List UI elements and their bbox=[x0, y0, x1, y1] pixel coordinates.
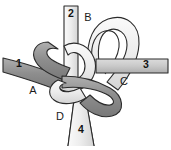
knot-diagram-figure: 1 2 3 4 A B C D bbox=[0, 0, 171, 150]
endpoint-label-2: 2 bbox=[68, 7, 74, 19]
strand-layer-mid-horizontal bbox=[96, 59, 168, 73]
region-label-d: D bbox=[56, 110, 64, 122]
region-label-a: A bbox=[29, 84, 37, 96]
region-label-c: C bbox=[120, 75, 128, 87]
endpoint-label-3: 3 bbox=[143, 58, 149, 70]
region-label-b: B bbox=[84, 11, 91, 23]
endpoint-label-1: 1 bbox=[16, 57, 22, 69]
endpoint-label-4: 4 bbox=[78, 123, 84, 135]
knot-diagram-canvas: 1 2 3 4 A B C D bbox=[0, 0, 171, 150]
mid-band-right-entry bbox=[96, 59, 168, 73]
